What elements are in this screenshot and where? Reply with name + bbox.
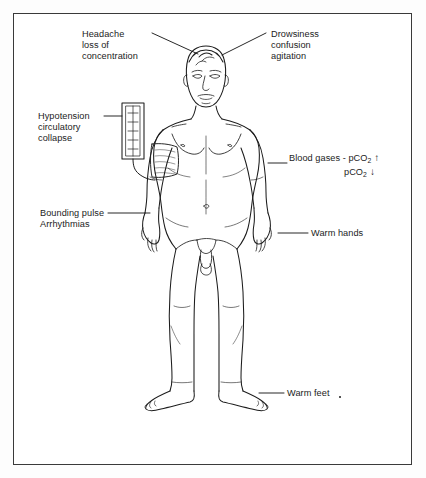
nipple-left <box>181 144 185 146</box>
groin-crease-right <box>216 240 237 249</box>
drowsiness-label-line-1: Drowsiness <box>271 29 319 40</box>
left-eyebrow <box>192 70 202 72</box>
left-knee <box>174 306 190 308</box>
left-calf-hint <box>171 326 180 344</box>
drowsiness-label-line-2: confusion <box>271 40 319 51</box>
left-toe-2 <box>150 402 152 408</box>
right-arm <box>241 130 271 252</box>
hypotension-label: Hypotension circulatory collapse <box>38 111 90 145</box>
blood-gases-prefix: Blood gases - <box>289 153 348 163</box>
right-finger-3 <box>256 240 257 251</box>
legs <box>169 249 244 391</box>
blood-gases-arrow-down-icon: ↓ <box>367 166 375 177</box>
headache-label-line-3: concentration <box>82 51 138 62</box>
torso-left-outline <box>154 130 176 249</box>
right-eye <box>210 75 220 79</box>
left-toe-3 <box>154 401 156 406</box>
hypotension-label-line-1: Hypotension <box>38 111 90 122</box>
blood-gases-label: Blood gases - pCO2↑ pCO2↓ <box>289 152 379 180</box>
left-finger-3 <box>156 240 157 251</box>
pectoral-right <box>209 134 241 154</box>
drowsiness-label: Drowsiness confusion agitation <box>271 29 319 63</box>
warm-feet-label: Warm feet <box>287 388 329 399</box>
iliac-crest-right <box>225 218 247 227</box>
scan-speck <box>339 396 341 398</box>
right-foot-outline <box>219 391 268 411</box>
feet <box>145 391 268 411</box>
groin-crease-left <box>176 240 197 249</box>
right-hand-outline <box>253 208 270 244</box>
mouth <box>198 95 214 97</box>
headache-label-line-1: Headache <box>82 29 138 40</box>
right-knee <box>223 306 239 308</box>
trapezius-left <box>163 119 191 130</box>
penis <box>200 250 211 268</box>
hair-strand-2 <box>202 57 214 61</box>
drowsiness-label-line-3: agitation <box>271 51 319 62</box>
blood-gases-row-2: pCO2↓ <box>289 166 379 180</box>
neck-left <box>191 106 196 119</box>
warm-hands-label: Warm hands <box>311 228 363 239</box>
blood-gases-arrow-up-icon: ↑ <box>371 152 379 163</box>
headache-label-line-2: loss of <box>82 40 138 51</box>
nose <box>203 76 209 91</box>
hair-strand-1 <box>199 53 212 57</box>
bounding-pulse-label-line-2: Arrhythmias <box>40 219 104 230</box>
hypotension-label-line-2: circulatory <box>38 122 90 133</box>
diagram-page: Headache loss of concentration Drowsines… <box>0 0 426 478</box>
right-leg-outer <box>237 249 244 391</box>
hypotension-label-line-3: collapse <box>38 133 90 144</box>
sphygmomanometer <box>122 103 179 180</box>
leader-drowsiness <box>222 33 266 55</box>
left-leg-inner <box>194 256 200 391</box>
mouth-lower <box>200 98 212 100</box>
torso-right-outline <box>237 130 259 249</box>
right-calf-hint <box>233 326 242 344</box>
blood-gases-row-1: Blood gases - pCO2↑ <box>289 152 379 166</box>
hair-strand-3 <box>196 61 206 65</box>
left-finger-2 <box>152 240 154 252</box>
nipple-right <box>228 144 232 146</box>
neck-and-shoulders <box>163 106 250 130</box>
left-leg-outer <box>169 249 176 391</box>
left-ankle <box>172 382 192 383</box>
bounding-pulse-label: Bounding pulse Arrhythmias <box>40 208 104 230</box>
trapezius-right <box>222 119 250 130</box>
ribcage-hint-right <box>223 168 245 177</box>
right-toe-2 <box>262 402 264 408</box>
navel <box>204 205 209 209</box>
neck-right <box>216 106 222 119</box>
left-foot-outline <box>146 391 195 411</box>
right-eyebrow <box>210 70 221 72</box>
pectoral-left <box>172 134 204 154</box>
right-toe-3 <box>257 401 259 406</box>
blood-gases-analyte-1: pCO <box>348 153 367 163</box>
right-ankle <box>221 382 241 383</box>
leader-headache <box>152 33 198 54</box>
left-arm <box>142 130 172 252</box>
left-eye <box>193 75 202 79</box>
pubic-region <box>197 239 216 254</box>
right-finger-2 <box>259 240 261 252</box>
right-leg-inner <box>213 256 219 391</box>
bounding-pulse-label-line-1: Bounding pulse <box>40 208 104 219</box>
headache-label: Headache loss of concentration <box>82 29 138 63</box>
torso <box>154 130 260 249</box>
chin-crease <box>202 103 210 104</box>
iliac-crest-left <box>166 218 188 227</box>
blood-gases-analyte-2: pCO <box>344 167 363 177</box>
left-hand-outline <box>143 208 160 244</box>
